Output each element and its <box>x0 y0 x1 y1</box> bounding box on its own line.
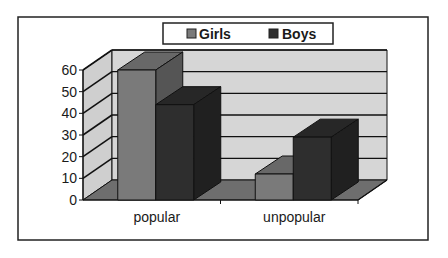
bar-front-boys <box>293 137 331 200</box>
y-tick-label: 30 <box>61 127 77 143</box>
y-tick-label: 0 <box>69 192 77 208</box>
legend-swatch-boys <box>269 29 278 38</box>
bar-side-boys <box>194 87 221 200</box>
bar-front-boys <box>156 105 194 200</box>
y-tick-label: 20 <box>61 149 77 165</box>
legend: Girls Boys <box>163 23 333 44</box>
y-tick-label: 40 <box>61 105 77 121</box>
y-tick-label: 60 <box>61 62 77 78</box>
bar-front-girls <box>118 70 156 200</box>
legend-label-boys: Boys <box>282 26 316 42</box>
category-label: popular <box>133 209 180 225</box>
category-label: unpopular <box>263 209 326 225</box>
legend-label-girls: Girls <box>199 26 231 42</box>
y-tick-label: 10 <box>61 170 77 186</box>
bar-front-girls <box>255 174 293 200</box>
y-tick-label: 50 <box>61 84 77 100</box>
plot-area: 0102030405060popularunpopular <box>61 50 387 225</box>
legend-swatch-girls <box>187 29 196 38</box>
chart: Girls Boys 0102030405060popularunpopular <box>0 0 448 258</box>
